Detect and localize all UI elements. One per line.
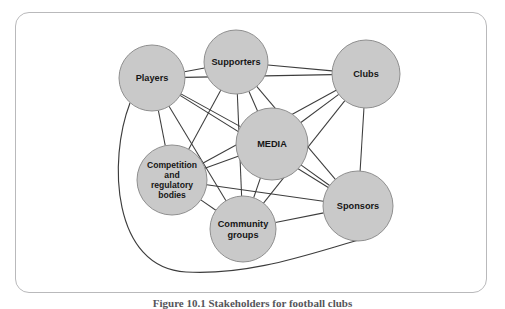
nodes-layer: PlayersSupportersClubsMEDIACompetitionan… bbox=[119, 30, 400, 262]
edge-players-supporters bbox=[184, 68, 204, 72]
node-sponsors[interactable]: Sponsors bbox=[323, 171, 393, 241]
node-community[interactable]: Communitygroups bbox=[210, 196, 276, 262]
edge-community-sponsors bbox=[275, 213, 323, 223]
node-clubs[interactable]: Clubs bbox=[332, 40, 400, 108]
node-media[interactable]: MEDIA bbox=[236, 108, 308, 180]
edge-media-community bbox=[254, 178, 261, 198]
edge-clubs-media bbox=[301, 94, 339, 122]
node-label-competition: and bbox=[164, 170, 179, 180]
node-label-media: MEDIA bbox=[257, 139, 287, 149]
node-label-players: Players bbox=[136, 73, 169, 83]
figure-container: PlayersSupportersClubsMEDIACompetitionan… bbox=[0, 0, 505, 309]
node-label-competition: regulatory bbox=[151, 180, 193, 190]
edge-supporters-clubs bbox=[268, 65, 332, 71]
edge-competition-community bbox=[201, 200, 216, 210]
node-label-competition: bodies bbox=[158, 190, 186, 200]
node-label-supporters: Supporters bbox=[211, 57, 260, 67]
figure-caption: Figure 10.1 Stakeholders for football cl… bbox=[0, 297, 505, 309]
edge-players-media bbox=[181, 94, 241, 127]
node-supporters[interactable]: Supporters bbox=[204, 30, 268, 94]
node-competition[interactable]: Competitionandregulatorybodies bbox=[137, 145, 207, 215]
edge-media-competition bbox=[205, 156, 238, 168]
node-label-clubs: Clubs bbox=[353, 69, 379, 79]
edge-players-competition bbox=[158, 110, 165, 145]
node-label-community: Community bbox=[218, 219, 269, 229]
node-label-competition: Competition bbox=[147, 160, 197, 170]
edge-clubs-sponsors bbox=[360, 108, 364, 171]
stakeholder-network-diagram: PlayersSupportersClubsMEDIACompetitionan… bbox=[0, 0, 505, 309]
node-players[interactable]: Players bbox=[119, 45, 185, 111]
edge-supporters-competition bbox=[189, 90, 221, 149]
edge-supporters-media bbox=[249, 91, 258, 111]
node-label-community: groups bbox=[227, 230, 258, 240]
node-label-sponsors: Sponsors bbox=[337, 201, 379, 211]
